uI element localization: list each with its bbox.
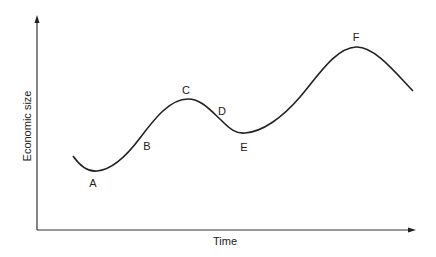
- point-label-b: B: [143, 140, 150, 152]
- point-label-e: E: [240, 141, 247, 153]
- x-axis-arrow-icon: [408, 228, 416, 233]
- y-axis-label: Economic size: [21, 91, 33, 162]
- business-cycle-diagram: A B C D E F Time Economic size: [0, 0, 436, 257]
- y-axis-arrow-icon: [35, 15, 40, 23]
- point-label-d: D: [218, 105, 226, 117]
- point-label-a: A: [89, 177, 97, 189]
- point-label-f: F: [353, 31, 360, 43]
- x-axis-label: Time: [213, 235, 237, 247]
- point-label-c: C: [182, 84, 190, 96]
